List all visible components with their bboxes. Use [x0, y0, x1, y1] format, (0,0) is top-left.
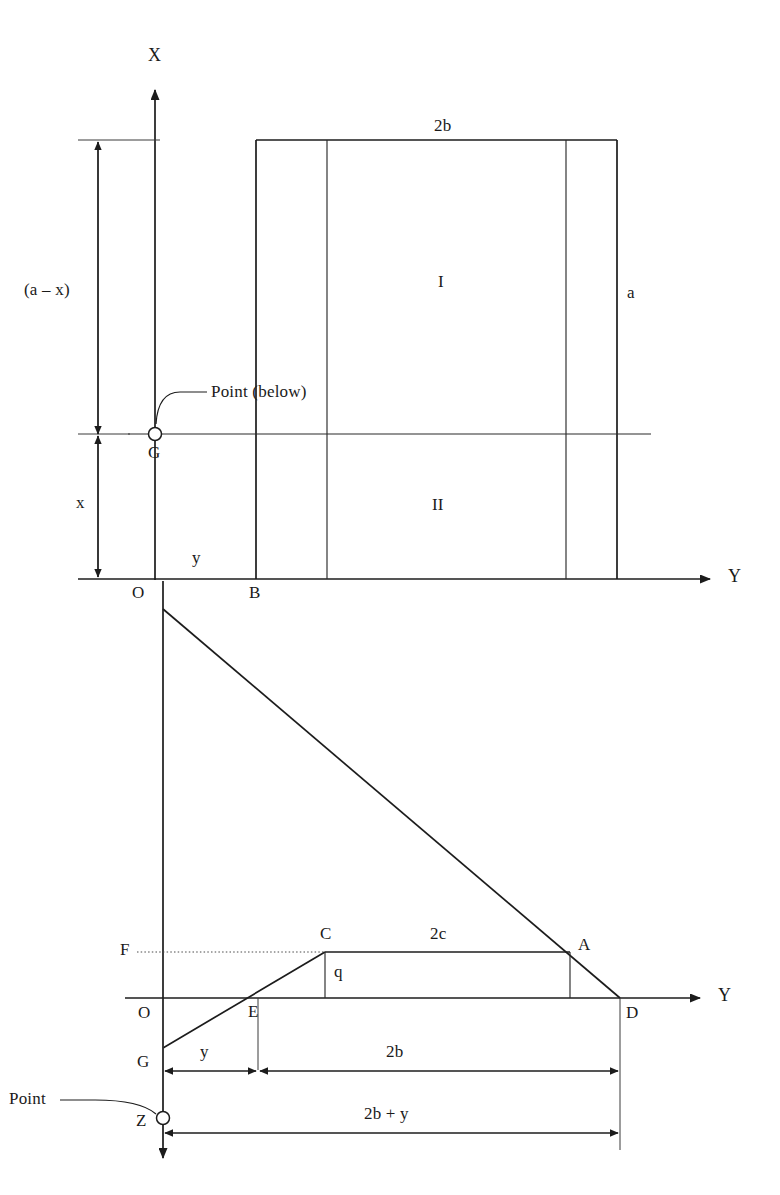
lower-dim-label-2b-plus-y: 2b + y: [364, 1105, 409, 1122]
upper-dim-label-a-minus-x: (a – x): [24, 281, 70, 298]
upper-origin-label-O: O: [132, 584, 144, 601]
lower-annotation-point: Point: [9, 1090, 46, 1107]
lower-origin-label-O: O: [138, 1004, 150, 1021]
lower-dim-label-2b: 2b: [386, 1043, 403, 1060]
upper-dim-label-a: a: [627, 284, 635, 301]
lower-point-label-A: A: [578, 936, 590, 953]
lower-point-label-C: C: [320, 925, 332, 942]
lower-point-label-E: E: [248, 1003, 259, 1020]
upper-axis-label-y: Y: [728, 567, 741, 585]
lower-point-label-D: D: [626, 1004, 638, 1021]
lower-axis-label-y: Y: [718, 986, 731, 1004]
upper-inner-divisions: [327, 140, 566, 579]
lower-dim-label-2c: 2c: [430, 925, 446, 942]
lower-dim-label-y: y: [200, 1043, 209, 1060]
lower-diagonal-O-to-D: [163, 609, 620, 998]
lower-point-marker-Z: [157, 1112, 170, 1125]
upper-dim-label-2b: 2b: [434, 117, 451, 134]
upper-dim-label-y: y: [192, 549, 201, 566]
upper-point-label-B: B: [249, 584, 261, 601]
lower-point-label-F: F: [120, 941, 130, 958]
upper-point-label-G: G: [148, 444, 160, 461]
figure-container: X Y 2b a (a – x) x y I II G O B Point (b…: [0, 0, 780, 1195]
lower-point-label-G: G: [137, 1053, 149, 1070]
lower-point-label-Z: Z: [136, 1112, 147, 1129]
upper-region-label-II: II: [432, 496, 444, 513]
lower-dimension-extension-lines: [163, 998, 620, 1150]
upper-region-label-I: I: [438, 273, 444, 290]
lower-dim-label-q: q: [334, 963, 343, 980]
figure-vector-canvas: [0, 0, 780, 1195]
upper-axis-label-x: X: [148, 46, 161, 64]
upper-dim-label-x: x: [76, 494, 85, 511]
lower-diagonal-G-to-C: [163, 952, 325, 1048]
upper-point-marker-G: [149, 428, 162, 441]
upper-annotation-point-below: Point (below): [211, 383, 307, 400]
upper-annotation-leader: [156, 392, 207, 424]
upper-dimension-extension-lines: [78, 140, 160, 434]
